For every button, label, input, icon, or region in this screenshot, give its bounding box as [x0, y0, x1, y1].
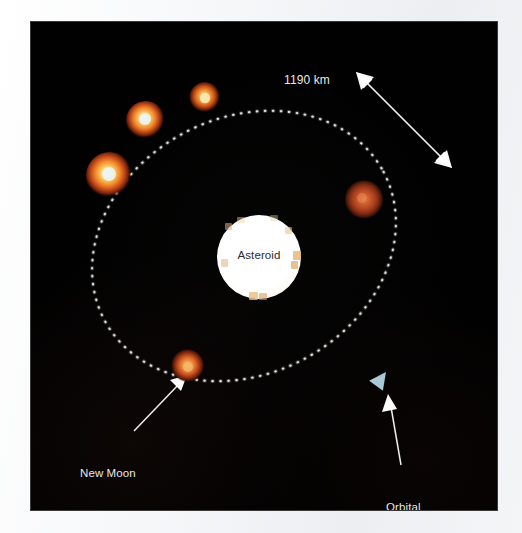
moon-4	[344, 180, 384, 220]
sky-plate: Asteroid 1190 km New Moon (as Seen on No…	[31, 22, 497, 510]
new-moon-caption-line-2: (as Seen on	[80, 510, 177, 511]
figure-root: Asteroid 1190 km New Moon (as Seen on No…	[0, 0, 522, 533]
asteroid: Asteroid	[215, 213, 303, 301]
orbit-direction-arrow-icon	[369, 367, 393, 391]
moon-2	[126, 101, 166, 141]
orbital-path-caption-line-1: Orbital	[386, 500, 423, 510]
moon-3	[86, 152, 134, 200]
orbital-path-leader-arrow-icon	[382, 394, 401, 465]
new-moon-caption-line-1: New Moon	[80, 466, 177, 481]
new-moon-leader-arrow-icon	[134, 375, 187, 431]
asteroid-label: Asteroid	[215, 249, 303, 261]
moon-1	[189, 82, 221, 114]
new-moon-caption: New Moon (as Seen on November 9,1998)	[80, 437, 177, 510]
orbital-path-caption: Orbital Path of Moon	[386, 471, 423, 510]
moon-5-new-moon	[170, 349, 204, 383]
scale-bar-label: 1190 km	[284, 73, 330, 88]
